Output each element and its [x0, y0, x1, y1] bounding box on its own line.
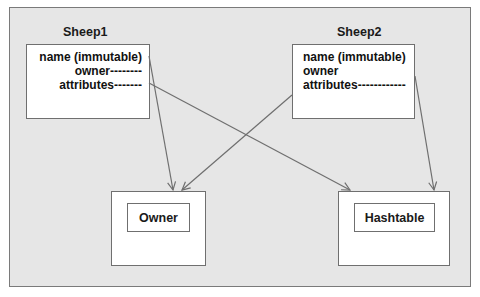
reference-arrows: [0, 0, 480, 297]
arrow-sheep1-owner-to-owner: [149, 56, 173, 190]
arrow-sheep1-attributes-to-hashtable: [149, 83, 350, 190]
arrow-sheep2-attributes-to-hashtable: [415, 76, 434, 190]
